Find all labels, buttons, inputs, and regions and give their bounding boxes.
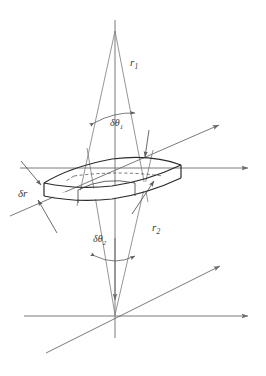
r2-ray-left <box>87 148 115 315</box>
label-dtheta2-base: δθ <box>93 233 103 244</box>
lower-axes-group <box>24 238 248 353</box>
label-dtheta1-base: δθ <box>110 117 120 128</box>
lower-diagonal-axis <box>46 266 220 353</box>
slab-hidden-edge-back <box>74 173 163 176</box>
label-dtheta2-subscript: 2 <box>103 239 107 246</box>
r1-pointer-arrow <box>145 130 149 157</box>
label-r2-subscript: 2 <box>156 227 160 236</box>
label-dr-base: δr <box>18 187 27 199</box>
upper-axes-group <box>10 20 248 300</box>
dr-pointer-upper-arrow <box>21 161 41 185</box>
upper-diagonal-axis <box>10 125 219 216</box>
slab-top-back-edge <box>44 157 181 183</box>
label-delta-theta-1: δθ1 <box>110 118 123 131</box>
label-r2: r2 <box>152 222 160 236</box>
label-r1: r1 <box>130 57 138 71</box>
label-r1-subscript: 1 <box>134 62 138 71</box>
geometry-diagram: r1 r2 δθ1 δθ2 δr <box>0 0 266 376</box>
dr-pointer-lower-arrow <box>38 200 57 233</box>
r2-ray-right <box>115 150 153 315</box>
volume-element <box>44 157 181 203</box>
label-delta-theta-2: δθ2 <box>93 234 106 247</box>
label-dtheta1-subscript: 1 <box>120 123 124 130</box>
label-delta-r: δr <box>18 188 27 199</box>
slab-hidden-edge-left <box>66 176 74 181</box>
